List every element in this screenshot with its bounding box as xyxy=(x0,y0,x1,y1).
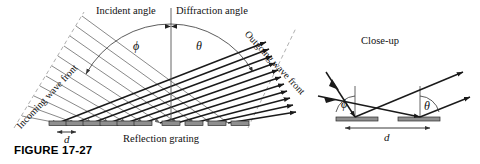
grating-element xyxy=(185,121,203,126)
closeup-ray-a-midarrow xyxy=(329,79,339,90)
incident-arc-tip xyxy=(165,24,171,29)
theta-symbol-closeup: θ xyxy=(424,100,430,112)
phi-symbol-closeup: ϕ xyxy=(341,98,347,110)
diffraction-angle-label: Diffraction angle xyxy=(176,6,248,17)
figure-17-27: Incident angle Diffraction angle ϕ θ Inc… xyxy=(0,0,480,164)
grating-elements xyxy=(49,121,249,126)
grating-element xyxy=(134,121,152,126)
grating-element xyxy=(100,121,118,126)
diffraction-angle-arc xyxy=(171,24,253,72)
closeup-incoming-ray-b xyxy=(318,96,420,117)
diffraction-arc-tip xyxy=(171,24,177,29)
grating-element xyxy=(336,117,378,121)
spacing-label-closeup: d xyxy=(384,132,390,143)
grating-element xyxy=(162,121,180,126)
reflection-grating-label: Reflection grating xyxy=(123,134,199,145)
grating-element xyxy=(208,121,226,126)
closeup-grating-elements xyxy=(336,117,440,121)
grating-element xyxy=(83,121,101,126)
figure-caption: FIGURE 17-27 xyxy=(14,144,92,156)
grating-element xyxy=(49,121,67,126)
closeup-title: Close-up xyxy=(361,36,399,47)
closeup-outgoing-ray-a xyxy=(355,72,463,117)
grating-element xyxy=(66,121,84,126)
theta-symbol-main: θ xyxy=(196,40,202,52)
figure-graphics xyxy=(0,0,480,164)
grating-element xyxy=(231,121,249,126)
grating-element xyxy=(117,121,135,126)
grating-element xyxy=(398,117,440,121)
incident-angle-arc xyxy=(86,24,171,74)
incident-angle-label: Incident angle xyxy=(96,6,156,17)
phi-symbol-main: ϕ xyxy=(133,40,139,52)
